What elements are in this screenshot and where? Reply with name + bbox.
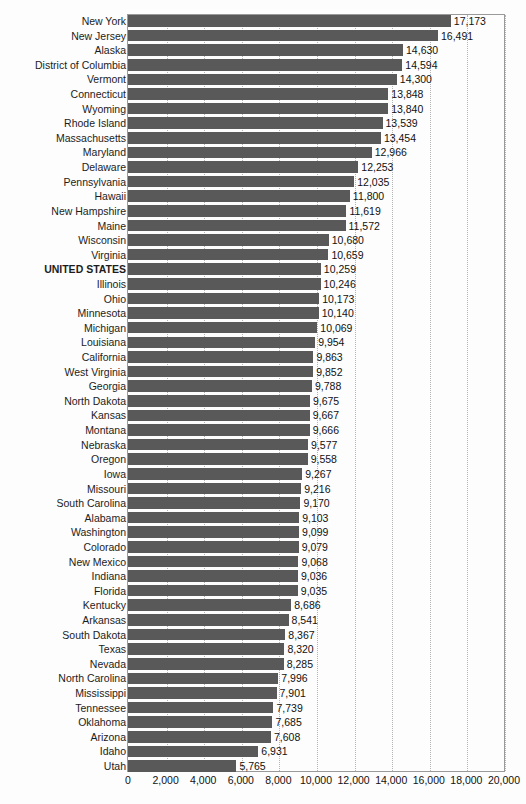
chart-page: New York17,173New Jersey16,491Alaska14,6…	[0, 0, 526, 804]
bar-row: Minnesota10,140	[0, 306, 526, 321]
bar-row: Nevada8,285	[0, 657, 526, 672]
category-label: Florida	[94, 584, 126, 599]
bar-row: Massachusetts13,454	[0, 131, 526, 146]
bar-row: Arizona7,608	[0, 730, 526, 745]
bar-row: Maryland12,966	[0, 145, 526, 160]
bar	[128, 263, 321, 275]
x-tick-label: 6,000	[228, 774, 254, 786]
value-label: 10,680	[329, 233, 364, 248]
category-label: Pennsylvania	[64, 175, 126, 190]
x-axis-ticks: 02,0004,0006,0008,00010,00012,00014,0001…	[0, 774, 526, 794]
category-label: Rhode Island	[64, 116, 126, 131]
bar-row: New Jersey16,491	[0, 29, 526, 44]
category-label: Hawaii	[94, 189, 126, 204]
category-label: South Carolina	[57, 496, 126, 511]
x-tick-label: 20,000	[488, 774, 520, 786]
value-label: 8,367	[285, 628, 314, 643]
bar	[128, 322, 317, 334]
value-label: 7,739	[273, 701, 302, 716]
category-label: Texas	[99, 642, 126, 657]
bar	[128, 190, 350, 202]
category-label: North Dakota	[64, 394, 126, 409]
category-label: Delaware	[82, 160, 126, 175]
bar-row: Florida9,035	[0, 584, 526, 599]
bar	[128, 556, 298, 568]
value-label: 8,320	[284, 642, 313, 657]
bar	[128, 570, 298, 582]
bar	[128, 293, 319, 305]
value-label: 9,079	[299, 540, 328, 555]
bar	[128, 278, 321, 290]
bar-row: Arkansas8,541	[0, 613, 526, 628]
x-tick-label: 14,000	[375, 774, 407, 786]
bar-row: Utah5,765	[0, 759, 526, 774]
bar	[128, 337, 315, 349]
bar-row: UNITED STATES10,259	[0, 262, 526, 277]
bar	[128, 599, 291, 611]
value-label: 13,539	[383, 116, 418, 131]
category-label: Idaho	[100, 744, 126, 759]
bar	[128, 307, 319, 319]
bar	[128, 59, 402, 71]
value-label: 9,852	[313, 365, 342, 380]
bar-row: Missouri9,216	[0, 482, 526, 497]
bar-row: Rhode Island13,539	[0, 116, 526, 131]
bar-row: Connecticut13,848	[0, 87, 526, 102]
bar-row: Washington9,099	[0, 525, 526, 540]
bar-row: Texas8,320	[0, 642, 526, 657]
category-label: Wyoming	[82, 102, 126, 117]
bar-row: Idaho6,931	[0, 744, 526, 759]
bar	[128, 702, 273, 714]
category-label: New York	[82, 14, 126, 29]
category-label: Alabama	[85, 511, 126, 526]
bar	[128, 74, 397, 86]
value-label: 9,954	[315, 335, 344, 350]
bar-row: New Hampshire11,619	[0, 204, 526, 219]
category-label: Utah	[104, 759, 126, 774]
bar-row: North Carolina7,996	[0, 671, 526, 686]
bar	[128, 15, 451, 27]
bar-row: West Virginia9,852	[0, 365, 526, 380]
bar	[128, 88, 388, 100]
category-label: Georgia	[89, 379, 126, 394]
value-label: 9,170	[300, 496, 329, 511]
value-label: 17,173	[451, 14, 486, 29]
bar-row: Nebraska9,577	[0, 438, 526, 453]
category-label: Arizona	[90, 730, 126, 745]
category-label: Wisconsin	[78, 233, 126, 248]
bar	[128, 541, 299, 553]
category-label: Iowa	[104, 467, 126, 482]
value-label: 9,036	[298, 569, 327, 584]
bar	[128, 220, 346, 232]
category-label: Kansas	[91, 408, 126, 423]
value-label: 16,491	[438, 29, 473, 44]
bar-row: Colorado9,079	[0, 540, 526, 555]
x-tick-label: 2,000	[152, 774, 178, 786]
category-label: Kentucky	[83, 598, 126, 613]
value-label: 9,667	[310, 408, 339, 423]
category-label: Michigan	[84, 321, 126, 336]
category-label: Nebraska	[81, 438, 126, 453]
category-label: District of Columbia	[35, 58, 126, 73]
value-label: 6,931	[258, 744, 287, 759]
bar-row: Kentucky8,686	[0, 598, 526, 613]
value-label: 5,765	[236, 759, 265, 774]
bar	[128, 249, 328, 261]
value-label: 11,800	[350, 189, 384, 204]
value-label: 9,666	[310, 423, 339, 438]
bar	[128, 132, 381, 144]
category-label: Tennessee	[75, 701, 126, 716]
category-label: North Carolina	[58, 671, 126, 686]
value-label: 9,099	[299, 525, 328, 540]
value-label: 10,140	[319, 306, 354, 321]
bar	[128, 439, 308, 451]
category-label: Colorado	[83, 540, 126, 555]
value-label: 10,069	[317, 321, 352, 336]
bar	[128, 526, 299, 538]
bar	[128, 147, 372, 159]
value-label: 12,966	[372, 145, 407, 160]
category-label: Mississippi	[75, 686, 126, 701]
value-label: 13,848	[388, 87, 423, 102]
bar-row: North Dakota9,675	[0, 394, 526, 409]
value-label: 8,541	[289, 613, 318, 628]
